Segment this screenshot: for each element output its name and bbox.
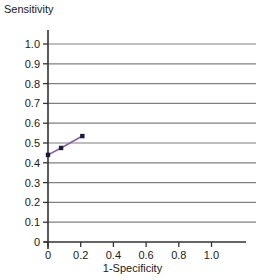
data-point-marker xyxy=(46,153,50,157)
y-tick-label: 0.8 xyxy=(25,78,40,90)
y-tick-label: 0.1 xyxy=(25,216,40,228)
y-tick-label: 0 xyxy=(34,236,40,248)
roc-chart: Sensitivity 00.10.20.30.40.50.60.70.80.9… xyxy=(0,0,265,280)
data-point-marker xyxy=(80,134,84,138)
x-tick-label: 0.6 xyxy=(138,249,153,261)
x-tick-label: 0.8 xyxy=(171,249,186,261)
x-tick-label: 0 xyxy=(45,249,51,261)
x-axis-ticks: 00.20.40.60.81.0 xyxy=(45,242,219,261)
y-axis-ticks: 00.10.20.30.40.50.60.70.80.91.0 xyxy=(25,38,48,248)
y-tick-label: 0.7 xyxy=(25,97,40,109)
y-tick-label: 1.0 xyxy=(25,38,40,50)
y-tick-label: 0.3 xyxy=(25,177,40,189)
x-tick-label: 1.0 xyxy=(204,249,219,261)
y-tick-label: 0.6 xyxy=(25,117,40,129)
x-tick-label: 0.4 xyxy=(106,249,121,261)
y-tick-label: 0.5 xyxy=(25,137,40,149)
y-tick-label: 0.4 xyxy=(25,157,40,169)
x-axis-title: 1-Specificity xyxy=(0,262,265,275)
x-tick-label: 0.2 xyxy=(73,249,88,261)
data-point-marker xyxy=(59,146,63,150)
roc-curve-line xyxy=(48,136,82,155)
y-tick-label: 0.9 xyxy=(25,58,40,70)
plot-area: 00.10.20.30.40.50.60.70.80.91.0 00.20.40… xyxy=(0,0,265,280)
y-tick-label: 0.2 xyxy=(25,196,40,208)
gridlines xyxy=(48,44,256,222)
